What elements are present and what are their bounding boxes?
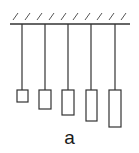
- pendulum-5: [109, 24, 121, 127]
- bob: [39, 90, 51, 109]
- bob: [62, 90, 74, 115]
- figure-label: a: [0, 127, 139, 149]
- ceiling-hatching: [13, 13, 126, 20]
- pendulum-3: [62, 24, 74, 115]
- bob: [109, 90, 121, 127]
- bob: [86, 90, 97, 121]
- pendulum-1: [17, 24, 28, 102]
- pendulum-2: [39, 24, 51, 109]
- bob: [17, 90, 28, 102]
- pendulum-4: [86, 24, 97, 121]
